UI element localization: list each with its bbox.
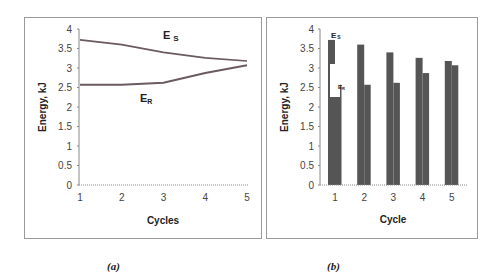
bar-er <box>423 73 430 185</box>
y-tick-label: 3.5 <box>300 43 314 54</box>
y-tick-label: 4 <box>308 24 314 35</box>
bar-er <box>335 85 342 185</box>
caption-b: (b) <box>327 260 340 272</box>
y-tick-label: 1 <box>308 141 314 152</box>
bar-er <box>364 85 371 185</box>
bar-es <box>357 45 364 185</box>
y-tick-label: 2 <box>66 102 72 113</box>
x-tick-label: 1 <box>332 192 338 203</box>
bar-es <box>445 61 452 185</box>
es-annotation: ES <box>331 31 341 40</box>
x-tick-label: 2 <box>361 192 367 203</box>
y-axis-title: Energy, kJ <box>37 82 48 132</box>
x-tick-label: 5 <box>449 192 455 203</box>
x-tick-label: 1 <box>77 192 83 203</box>
x-tick-label: 3 <box>391 192 397 203</box>
x-axis-ticks: 12345 <box>77 192 250 203</box>
bar-er <box>452 65 459 185</box>
bar-chart: 00.511.522.533.54 12345 ES ER Cycle Ener… <box>279 24 468 226</box>
y-tick-label: 3 <box>308 63 314 74</box>
y-tick-label: 3 <box>66 63 72 74</box>
y-tick-label: 0.5 <box>300 160 314 171</box>
y-tick-label: 0.5 <box>58 160 72 171</box>
y-tick-label: 1.5 <box>58 121 72 132</box>
y-axis-title: Energy, kJ <box>279 82 290 132</box>
charts-canvas: 00.511.522.533.54 12345 ES ER Cycles Ene… <box>0 0 502 275</box>
x-tick-label: 5 <box>244 192 250 203</box>
x-axis-ticks: 12345 <box>332 192 455 203</box>
annotation-gap <box>330 64 340 97</box>
bars <box>328 40 458 185</box>
series-er-line <box>80 65 247 85</box>
y-axis-ticks: 00.511.522.533.54 <box>58 24 79 191</box>
y-axis-ticks: 00.511.522.533.54 <box>300 24 320 191</box>
es-annotation: ES <box>163 29 179 43</box>
y-tick-label: 2.5 <box>300 82 314 93</box>
y-tick-label: 1 <box>66 141 72 152</box>
x-tick-label: 4 <box>420 192 426 203</box>
bar-es <box>328 40 335 185</box>
y-tick-label: 4 <box>66 24 72 35</box>
bar-es <box>416 58 423 185</box>
bar-es <box>386 52 393 185</box>
y-tick-label: 3.5 <box>58 43 72 54</box>
y-tick-label: 0 <box>308 180 314 191</box>
y-tick-label: 2.5 <box>58 82 72 93</box>
er-annotation: ER <box>140 92 152 105</box>
series-es-line <box>80 40 247 61</box>
line-chart: 00.511.522.533.54 12345 ES ER Cycles Ene… <box>37 24 250 227</box>
bar-er <box>393 83 400 185</box>
x-tick-label: 2 <box>119 192 125 203</box>
y-tick-label: 0 <box>66 180 72 191</box>
y-tick-label: 2 <box>308 102 314 113</box>
x-tick-label: 4 <box>202 192 208 203</box>
caption-a: (a) <box>107 260 120 272</box>
x-axis-title: Cycles <box>147 215 180 226</box>
er-annotation: ER <box>338 84 345 91</box>
y-tick-label: 1.5 <box>300 121 314 132</box>
x-axis-title: Cycle <box>380 214 407 225</box>
x-tick-label: 3 <box>161 192 167 203</box>
